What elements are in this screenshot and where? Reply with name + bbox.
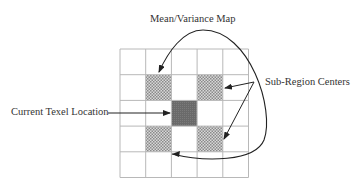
sub-region-cell xyxy=(146,126,172,152)
sub-region-cell xyxy=(197,75,223,101)
sub-region-cell xyxy=(197,126,223,152)
current-texel-location-label: Current Texel Location xyxy=(11,106,109,117)
diagram-canvas: Mean/Variance Map Sub-Region Centers Cur… xyxy=(0,0,357,186)
current-texel-cell xyxy=(171,100,197,126)
mean-variance-map-label: Mean/Variance Map xyxy=(150,13,235,24)
sub-region-cell xyxy=(146,75,172,101)
texel-grid-diagram xyxy=(0,0,357,186)
sub-region-arrow-top-right xyxy=(225,82,254,88)
sub-region-centers-label: Sub-Region Centers xyxy=(265,76,350,87)
sub-region-arrow-bottom-right xyxy=(224,82,254,139)
